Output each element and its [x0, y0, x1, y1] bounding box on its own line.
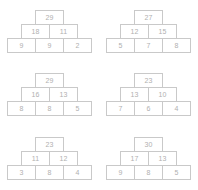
pyramid-cell[interactable]: 5 — [106, 38, 135, 53]
pyramid-cell[interactable]: 4 — [63, 165, 92, 180]
pyramid-cell[interactable]: 29 — [35, 10, 64, 25]
pyramid-5: 23 11 12 3 8 4 — [0, 127, 99, 190]
pyramid-cell[interactable]: 6 — [134, 101, 163, 116]
pyramid-2-row-1: 12 15 — [120, 24, 177, 39]
pyramid-2-row-2: 5 7 8 — [106, 38, 191, 53]
pyramid-cell[interactable]: 29 — [35, 73, 64, 88]
pyramid-cell[interactable]: 12 — [120, 24, 149, 39]
pyramid-cell[interactable]: 7 — [106, 101, 135, 116]
pyramid-cell[interactable]: 7 — [134, 38, 163, 53]
pyramid-cell[interactable]: 11 — [21, 151, 50, 166]
pyramid-cell[interactable]: 8 — [134, 165, 163, 180]
pyramid-grid: 29 18 11 9 9 2 27 12 15 5 7 8 — [0, 0, 198, 190]
pyramid-cell[interactable]: 9 — [7, 38, 36, 53]
pyramid-6-row-2: 9 8 5 — [106, 165, 191, 180]
pyramid-5-row-2: 3 8 4 — [7, 165, 92, 180]
pyramid-cell[interactable]: 13 — [120, 87, 149, 102]
pyramid-cell[interactable]: 2 — [63, 38, 92, 53]
pyramid-cell[interactable]: 23 — [134, 73, 163, 88]
pyramid-cell[interactable]: 13 — [49, 87, 78, 102]
pyramid-cell[interactable]: 27 — [134, 10, 163, 25]
pyramid-cell[interactable]: 3 — [7, 165, 36, 180]
pyramid-4-row-2: 7 6 4 — [106, 101, 191, 116]
pyramid-6-row-1: 17 13 — [120, 151, 177, 166]
pyramid-1-row-1: 18 11 — [21, 24, 78, 39]
number-pyramid-worksheet: 29 18 11 9 9 2 27 12 15 5 7 8 — [0, 0, 198, 190]
pyramid-cell[interactable]: 15 — [148, 24, 177, 39]
pyramid-cell[interactable]: 16 — [21, 87, 50, 102]
pyramid-4: 23 13 10 7 6 4 — [99, 63, 198, 127]
pyramid-cell[interactable]: 12 — [49, 151, 78, 166]
pyramid-2-row-0: 27 — [134, 10, 163, 25]
pyramid-1-row-0: 29 — [35, 10, 64, 25]
pyramid-1: 29 18 11 9 9 2 — [0, 0, 99, 63]
pyramid-cell[interactable]: 8 — [35, 165, 64, 180]
pyramid-cell[interactable]: 30 — [134, 137, 163, 152]
pyramid-cell[interactable]: 5 — [63, 101, 92, 116]
pyramid-cell[interactable]: 17 — [120, 151, 149, 166]
pyramid-1-row-2: 9 9 2 — [7, 38, 92, 53]
pyramid-cell[interactable]: 10 — [148, 87, 177, 102]
pyramid-cell[interactable]: 18 — [21, 24, 50, 39]
pyramid-cell[interactable]: 9 — [106, 165, 135, 180]
pyramid-5-row-1: 11 12 — [21, 151, 78, 166]
pyramid-cell[interactable]: 11 — [49, 24, 78, 39]
pyramid-6-row-0: 30 — [134, 137, 163, 152]
pyramid-cell[interactable]: 13 — [148, 151, 177, 166]
pyramid-cell[interactable]: 4 — [162, 101, 191, 116]
pyramid-4-row-1: 13 10 — [120, 87, 177, 102]
pyramid-cell[interactable]: 9 — [35, 38, 64, 53]
pyramid-3-row-1: 16 13 — [21, 87, 78, 102]
pyramid-cell[interactable]: 23 — [35, 137, 64, 152]
pyramid-cell[interactable]: 8 — [35, 101, 64, 116]
pyramid-cell[interactable]: 5 — [162, 165, 191, 180]
pyramid-4-row-0: 23 — [134, 73, 163, 88]
pyramid-3-row-2: 8 8 5 — [7, 101, 92, 116]
pyramid-cell[interactable]: 8 — [7, 101, 36, 116]
pyramid-3-row-0: 29 — [35, 73, 64, 88]
pyramid-3: 29 16 13 8 8 5 — [0, 63, 99, 127]
pyramid-cell[interactable]: 8 — [162, 38, 191, 53]
pyramid-5-row-0: 23 — [35, 137, 64, 152]
pyramid-6: 30 17 13 9 8 5 — [99, 127, 198, 190]
pyramid-2: 27 12 15 5 7 8 — [99, 0, 198, 63]
